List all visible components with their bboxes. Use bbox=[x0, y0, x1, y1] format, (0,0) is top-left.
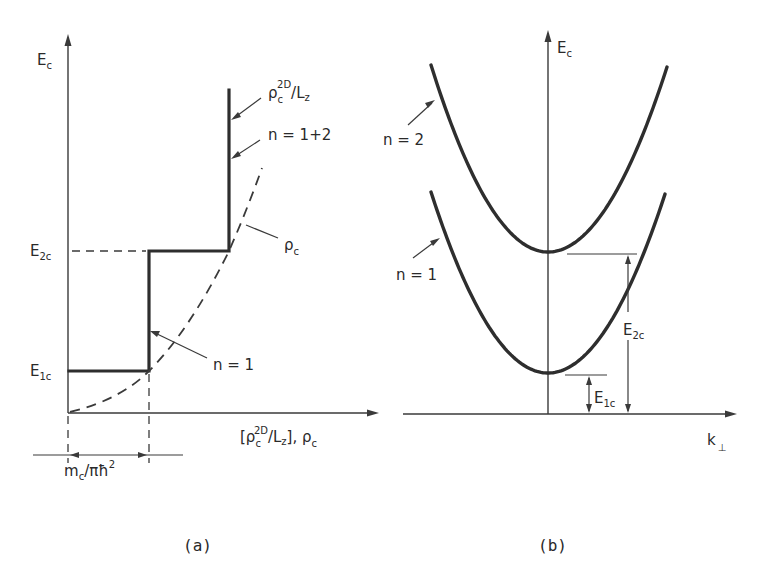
panel-b-e1c-up-arrow-icon bbox=[586, 376, 592, 385]
panel-a-caption: (a) bbox=[183, 536, 212, 555]
panel-a-staircase-dos bbox=[69, 90, 229, 371]
panel-a-step-width-label: mc/πħ2 bbox=[64, 459, 115, 482]
panel-a-n1-pointer bbox=[153, 332, 207, 358]
panel-a-level-e1c-label: E1c bbox=[30, 362, 51, 382]
panel-a-dos-2d-label: ρc2D/Lz bbox=[268, 79, 310, 105]
figure: Ec E1c E2c mc/πħ2 [ρc2D/Lz], ρc ρc2D/Lz … bbox=[0, 0, 763, 582]
panel-a-y-axis-arrow-icon bbox=[65, 34, 72, 46]
panel-b-n2-label: n = 2 bbox=[383, 131, 424, 149]
panel-b-n1-label: n = 1 bbox=[396, 266, 437, 284]
panel-b-e1c-label: E1c bbox=[594, 389, 615, 409]
panel-a-n12-label: n = 1+2 bbox=[268, 126, 331, 144]
panel-a-rho-c-label: ρc bbox=[284, 236, 299, 257]
panel-b-e2c-down-arrow-icon bbox=[625, 404, 631, 413]
panel-b-e1c-down-arrow-icon bbox=[586, 404, 592, 413]
panel-b-e2c-label: E2c bbox=[623, 321, 644, 341]
panel-a-x-axis-label: [ρc2D/Lz], ρc bbox=[240, 425, 317, 449]
panel-a-bracket-right-arrow-icon bbox=[138, 452, 147, 458]
panel-b-subband-n2-curve bbox=[431, 65, 667, 252]
panel-a: Ec E1c E2c mc/πħ2 [ρc2D/Lz], ρc ρc2D/Lz … bbox=[30, 34, 379, 555]
panel-a-y-axis-label: Ec bbox=[37, 51, 52, 71]
panel-a-bulk-dos-curve bbox=[70, 168, 262, 412]
panel-a-n12-pointer-arrow-icon bbox=[231, 151, 241, 159]
panel-b-e2c-up-arrow-icon bbox=[625, 255, 631, 264]
panel-a-level-e2c-label: E2c bbox=[30, 242, 51, 262]
panel-a-n1-pointer-arrow-icon bbox=[150, 331, 160, 337]
panel-a-x-axis-arrow-icon bbox=[367, 410, 379, 417]
panel-b-caption: (b) bbox=[538, 536, 567, 555]
panel-b-n2-pointer-arrow-icon bbox=[425, 100, 435, 108]
panel-b-x-axis-label: k⊥ bbox=[707, 431, 726, 453]
panel-b: Ec k⊥ n = 2 n = 1 E1c E2c (b) bbox=[383, 30, 737, 555]
panel-b-x-axis-arrow-icon bbox=[725, 411, 737, 418]
panel-a-bracket-left-arrow-icon bbox=[70, 452, 79, 458]
panel-b-y-axis-arrow-icon bbox=[545, 30, 552, 42]
panel-a-n1-label: n = 1 bbox=[213, 356, 254, 374]
panel-a-rho-c-pointer bbox=[246, 225, 278, 238]
panel-b-y-axis-label: Ec bbox=[557, 39, 572, 59]
